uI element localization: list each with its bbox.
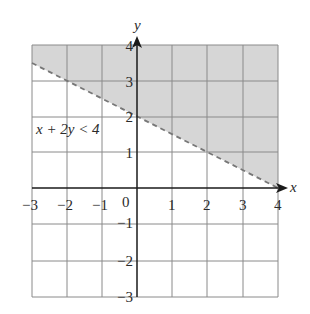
x-tick-label: −1 (92, 197, 108, 213)
y-tick-label: −1 (117, 215, 133, 231)
x-tick-label: 2 (203, 197, 211, 213)
x-tick-label: 1 (168, 197, 176, 213)
y-tick-label: −2 (117, 253, 133, 269)
x-axis-label: x (289, 179, 297, 195)
inequality-label: x + 2y < 4 (35, 121, 100, 137)
y-tick-label: 4 (126, 38, 134, 54)
y-tick-label: 3 (126, 74, 134, 90)
coordinate-graph: x y −3 −2 −1 0 1 2 3 4 4 3 2 1 −1 −2 −3 … (0, 0, 310, 314)
x-tick-label: 4 (274, 197, 282, 213)
x-tick-label: −3 (22, 197, 38, 213)
y-tick-label: 2 (126, 109, 134, 125)
y-axis-label: y (132, 17, 141, 33)
origin-label: 0 (122, 194, 130, 210)
y-tick-label: −3 (117, 289, 133, 305)
x-tick-label: −2 (57, 197, 73, 213)
x-tick-label: 3 (239, 197, 247, 213)
y-tick-label: 1 (126, 145, 134, 161)
